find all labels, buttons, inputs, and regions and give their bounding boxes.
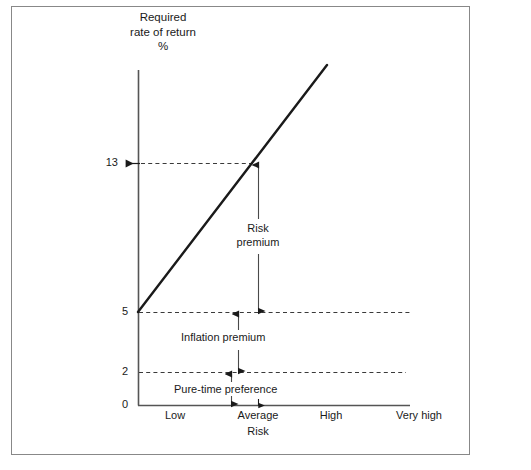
annotation-risk-premium: Riskpremium — [224, 221, 292, 250]
x-tick-label-low: Low — [145, 409, 205, 422]
y-axis-title: Requiredrate of return% — [107, 10, 219, 54]
x-axis-title: Risk — [222, 425, 294, 438]
y-tick-label-5: 5 — [88, 305, 128, 318]
y-axis-title-line-2: rate of return — [130, 26, 196, 38]
y-axis-title-line-3: % — [158, 40, 168, 52]
figure-root: Requiredrate of return% 13 5 2 0 Low Ave… — [0, 0, 531, 470]
y-axis-title-line-1: Required — [140, 11, 187, 23]
y-tick-label-13: 13 — [78, 156, 118, 169]
y-tick-label-0: 0 — [88, 398, 128, 411]
annotation-risk-premium-line-1: Risk — [247, 222, 268, 234]
y-tick-label-2: 2 — [88, 365, 128, 378]
x-tick-label-average: Average — [222, 409, 294, 422]
annotation-inflation-premium: Inflation premium — [178, 331, 268, 344]
x-tick-label-high: High — [303, 409, 359, 422]
x-tick-label-very-high: Very high — [381, 409, 457, 422]
annotation-risk-premium-line-2: premium — [237, 236, 280, 248]
annotation-pure-time-preference: Pure-time preference — [171, 383, 280, 396]
